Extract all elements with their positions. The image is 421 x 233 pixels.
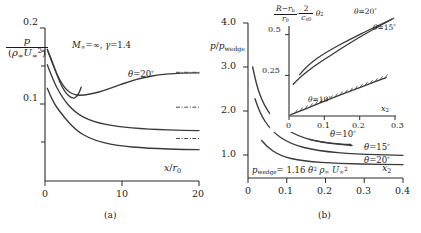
theta-equals: =20 (133, 69, 151, 79)
x-subscript: 2 (387, 167, 391, 175)
theta-equals: =15 (378, 23, 394, 32)
panel-b-caption: (b) (318, 211, 331, 220)
panel-a-ylabel-denominator: (ρ∞U∞2) (6, 47, 48, 60)
rb-subscript: b (292, 7, 295, 13)
panel-a-xtick-label-0: 0 (42, 189, 48, 199)
panel-b-ytick-label-2: 2.0 (221, 105, 236, 115)
u-superscript: 2 (344, 166, 348, 172)
panel-b-xtick-label-1: 0.1 (278, 186, 293, 196)
panel-b-xtick-label-4: 0.4 (395, 186, 410, 196)
panel-b-curve-label-theta20: θ=20° (364, 156, 390, 165)
inset-xtick-label-1: 0.1 (317, 122, 330, 130)
r0-subscript: 0 (286, 17, 289, 23)
degree-symbol: ° (387, 143, 390, 149)
inset-ylabel-numerator: R−rb (274, 5, 297, 14)
inset-xtick-label-3: 0.3 (391, 122, 404, 130)
inset-xlabel: x2 (381, 105, 389, 114)
rho-subscript: ∞ (325, 169, 330, 175)
inset-curve-label-theta15: θ=15° (373, 24, 396, 32)
panel-a-ytick-label-1: 0.1 (23, 93, 38, 103)
panel-a-plot (0, 0, 210, 233)
panel-b-ytick-label-1: 3.0 (221, 61, 236, 71)
theta-superscript: 2 (320, 11, 323, 17)
inset-ylabel-two: 2 (299, 5, 313, 13)
inset-xtick-label-0: 0 (286, 122, 291, 130)
panel-b-xtick-label-0: 0 (245, 186, 251, 196)
panel-b-formula: pwedge= 1.16 θ2 ρ∞ U∞2 (252, 166, 348, 176)
inset-curve-label-theta10: θ=10° (308, 96, 331, 104)
inset-curve-label-theta20: θ=20° (354, 8, 377, 16)
mach-equals: =∞, (86, 40, 103, 50)
panel-b-xtick-label-3: 0.3 (356, 186, 371, 196)
pwedge-subscript: wedge (257, 169, 276, 175)
panel-a-ytick-label-0: 0.2 (23, 17, 38, 27)
degree-symbol: ° (353, 130, 356, 136)
panel-a: p (ρ∞U∞2) 0.2 0.1 0 10 20 x/r0 M∞=∞, γ=1… (0, 0, 210, 233)
degree-symbol: ° (151, 70, 154, 76)
panel-b-ytick-label-0: 4.0 (221, 17, 236, 27)
cs-subscript: s0 (305, 17, 311, 23)
panel-b-curve-label-theta15: θ=15° (364, 143, 390, 152)
panel-a-xtick-label-1: 10 (116, 189, 128, 199)
inset-xtick-label-2: 0.2 (352, 122, 365, 130)
panel-b-xtick-label-2: 0.2 (317, 186, 332, 196)
panel-a-ylabel-numerator: p (6, 36, 48, 47)
panel-a-curve-theta15 (47, 65, 199, 131)
degree-symbol: ° (328, 95, 331, 101)
theta-equals: =20 (369, 155, 387, 165)
mach-symbol: M (72, 40, 81, 50)
panel-b-ytick-label-3: 1.0 (221, 149, 236, 159)
theta-superscript: 2 (313, 166, 317, 172)
panel-a-title: M∞=∞, γ=1.4 (72, 41, 131, 51)
u-symbol: U (23, 47, 31, 58)
panel-b-ylabel: p/pwedge (210, 42, 245, 52)
pwedge-subscript: wedge (225, 45, 245, 52)
r-subscript: 0 (177, 167, 181, 175)
theta-equals: =15 (369, 142, 387, 152)
panel-a-xtick-label-2: 20 (192, 189, 204, 199)
theta-equals: =10 (313, 95, 329, 104)
panel-a-xlabel: x/r0 (164, 163, 181, 174)
panel-b: p/pwedge 4.0 3.0 2.0 1.0 0 0.1 0.2 0.3 0… (210, 0, 421, 233)
figure-container: p (ρ∞U∞2) 0.2 0.1 0 10 20 x/r0 M∞=∞, γ=1… (0, 0, 421, 233)
panel-b-plot (210, 0, 421, 233)
inset-ylabel: R−rb r0 · 2 cs0 θ2 (274, 5, 323, 23)
x-subscript: 2 (386, 107, 389, 113)
inset-ytick-label-1: 0.25 (262, 67, 280, 75)
panel-b-curve-label-theta10: θ=10° (330, 130, 356, 139)
panel-a-curve-label-theta20: θ=20° (128, 70, 154, 79)
panel-a-caption: (a) (104, 211, 116, 220)
theta-equals: =10 (335, 129, 353, 139)
theta-equals: =20 (359, 7, 375, 16)
inset-ylabel-cs: cs0 (299, 13, 313, 23)
degree-symbol: ° (393, 23, 396, 29)
panel-a-ylabel: p (ρ∞U∞2) (6, 36, 48, 59)
degree-symbol: ° (374, 7, 377, 13)
inset-ytick-label-0: 0.5 (268, 26, 281, 34)
gamma-equals: =1.4 (110, 40, 131, 50)
formula-equals: = 1.16 (277, 165, 306, 175)
degree-symbol: ° (387, 156, 390, 162)
paren-close: ) (42, 47, 46, 58)
inset-ylabel-denominator: r0 (274, 14, 297, 24)
